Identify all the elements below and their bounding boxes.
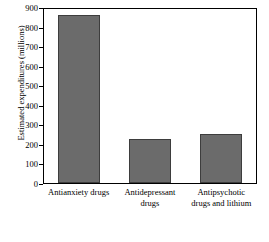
y-tick-label: 900 [16,4,38,13]
x-axis-label: Antidepressant drugs [116,187,184,208]
y-tick-label: 0 [16,180,38,189]
y-tick-label: 500 [16,82,38,91]
y-tick-label: 100 [16,160,38,169]
bar-chart: Estimated expenditures (millions) 010020… [0,0,269,242]
bar-series [44,9,256,183]
plot-area [43,8,257,184]
x-axis-label: Antipsychotic drugs and lithium [187,187,255,208]
y-tick-mark [39,184,43,185]
x-axis-label: Antianxiety drugs [45,187,113,198]
y-axis-tick-labels: 0100200300400500600700800900 [16,8,38,184]
y-tick-label: 700 [16,43,38,52]
y-tick-label: 800 [16,24,38,33]
y-tick-label: 300 [16,121,38,130]
bar [129,139,171,183]
y-tick-label: 200 [16,141,38,150]
bar [58,15,100,183]
bar [200,134,242,183]
x-axis-category-labels: Antianxiety drugsAntidepressant drugsAnt… [43,187,257,235]
y-tick-label: 600 [16,63,38,72]
y-tick-label: 400 [16,102,38,111]
